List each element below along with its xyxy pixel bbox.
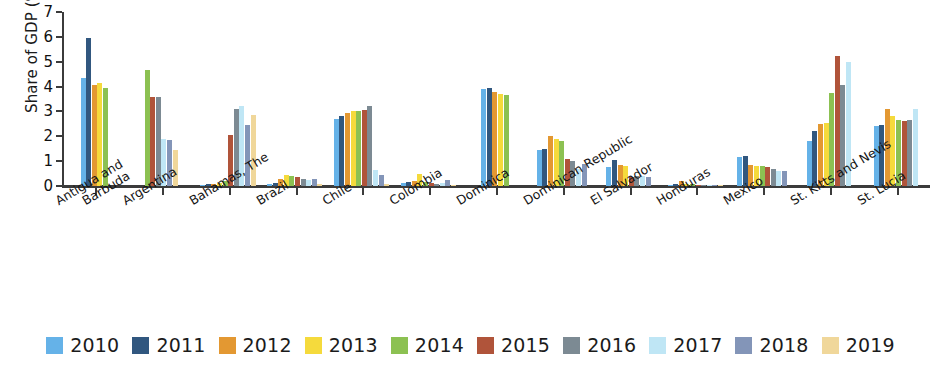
bar <box>251 115 256 186</box>
bar <box>345 113 350 186</box>
legend-swatch-2010 <box>46 337 63 354</box>
legend-swatch-2015 <box>477 337 494 354</box>
bar <box>712 185 717 186</box>
bar <box>384 184 389 186</box>
legend-label: 2013 <box>329 334 378 356</box>
bar <box>339 116 344 186</box>
bar <box>86 38 91 186</box>
bar <box>771 169 776 186</box>
legend-item[interactable]: 2016 <box>563 334 636 356</box>
legend-item[interactable]: 2011 <box>132 334 205 356</box>
legend-swatch-2013 <box>305 337 322 354</box>
bar <box>356 111 361 186</box>
legend-label: 2014 <box>415 334 464 356</box>
bar <box>646 177 651 186</box>
y-axis-tick-label: 4 <box>43 79 53 94</box>
bar <box>718 185 723 186</box>
legend-item[interactable]: 2015 <box>477 334 550 356</box>
legend-label: 2015 <box>501 334 550 356</box>
legend-item[interactable]: 2014 <box>391 334 464 356</box>
bar <box>782 171 787 186</box>
legend-swatch-2014 <box>391 337 408 354</box>
bar <box>334 119 339 186</box>
bar <box>537 150 542 186</box>
legend-swatch-2011 <box>132 337 149 354</box>
bar-group <box>463 12 530 186</box>
legend-item[interactable]: 2019 <box>822 334 895 356</box>
bar <box>451 185 456 186</box>
bar <box>367 106 372 186</box>
bar <box>373 170 378 186</box>
y-axis-tick-label: 3 <box>43 104 53 119</box>
x-axis-tick <box>362 186 364 195</box>
bar <box>301 179 306 186</box>
y-axis-tick-label: 7 <box>43 5 53 20</box>
x-axis-tick <box>296 186 298 195</box>
y-axis-title: Share of GDP (%) <box>23 0 41 137</box>
bar <box>379 175 384 186</box>
bar <box>440 183 445 186</box>
bar <box>701 185 706 186</box>
bar <box>312 179 317 186</box>
x-axis-tick <box>162 186 164 195</box>
bar <box>306 180 311 186</box>
bar <box>434 184 439 186</box>
bar <box>445 180 450 186</box>
bar <box>81 78 86 186</box>
x-axis-tick <box>897 186 899 195</box>
bar-group <box>262 12 329 186</box>
x-axis-tick <box>630 186 632 195</box>
x-axis-tick <box>696 186 698 195</box>
bar <box>317 184 322 186</box>
bar <box>765 167 770 186</box>
bar-group <box>730 12 797 186</box>
bar-chart: Share of GDP (%) 01234567 20102011201220… <box>0 0 941 365</box>
y-axis-tick-label: 5 <box>43 54 53 69</box>
x-axis-tick <box>229 186 231 195</box>
legend-swatch-2017 <box>649 337 666 354</box>
y-axis-tick-label: 6 <box>43 29 53 44</box>
bar <box>481 89 486 186</box>
bar <box>295 177 300 186</box>
legend-swatch-2019 <box>822 337 839 354</box>
bar <box>707 185 712 186</box>
bar <box>807 141 812 186</box>
x-axis-tick <box>563 186 565 195</box>
x-axis-tick <box>830 186 832 195</box>
legend-label: 2019 <box>846 334 895 356</box>
legend-item[interactable]: 2017 <box>649 334 722 356</box>
legend-item[interactable]: 2012 <box>219 334 292 356</box>
plot-area: 01234567 <box>62 12 930 186</box>
x-axis-tick <box>429 186 431 195</box>
x-axis-tick <box>496 186 498 195</box>
y-axis-tick-label: 2 <box>43 129 53 144</box>
bar <box>362 110 367 186</box>
legend-label: 2012 <box>243 334 292 356</box>
chart-legend: 2010201120122013201420152016201720182019 <box>0 330 941 360</box>
bar <box>351 111 356 186</box>
legend-label: 2011 <box>156 334 205 356</box>
legend-item[interactable]: 2013 <box>305 334 378 356</box>
bar <box>145 70 150 186</box>
legend-label: 2017 <box>673 334 722 356</box>
bar-group <box>329 12 396 186</box>
legend-swatch-2012 <box>219 337 236 354</box>
bar <box>289 176 294 186</box>
y-axis-tick-label: 0 <box>43 179 53 194</box>
legend-swatch-2016 <box>563 337 580 354</box>
bar <box>776 171 781 186</box>
bar <box>907 120 912 186</box>
legend-label: 2018 <box>759 334 808 356</box>
legend-label: 2016 <box>587 334 636 356</box>
bar-group <box>396 12 463 186</box>
x-axis-tick <box>763 186 765 195</box>
bar-group <box>129 12 196 186</box>
legend-item[interactable]: 2018 <box>735 334 808 356</box>
y-axis-tick-label: 1 <box>43 154 53 169</box>
bar-group <box>663 12 730 186</box>
legend-swatch-2018 <box>735 337 752 354</box>
legend-item[interactable]: 2010 <box>46 334 119 356</box>
bar <box>913 109 918 186</box>
legend-divider <box>0 318 941 319</box>
legend-label: 2010 <box>70 334 119 356</box>
